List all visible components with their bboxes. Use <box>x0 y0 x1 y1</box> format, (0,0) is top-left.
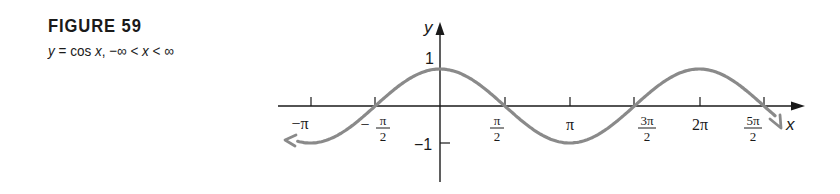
svg-text:2: 2 <box>644 129 651 144</box>
svg-text:5π: 5π <box>746 113 760 128</box>
svg-text:2: 2 <box>494 129 501 144</box>
x-axis-arrow-icon <box>791 102 805 111</box>
y-tick-label-neg-one: −1 <box>414 136 432 153</box>
x-tick-label-five-half-pi: 5π 2 <box>744 113 762 144</box>
curve-left-arrow-icon <box>285 135 296 146</box>
svg-text:2: 2 <box>380 129 387 144</box>
y-axis-arrow-icon <box>436 22 445 35</box>
x-tick-label-three-half-pi: 3π 2 <box>638 113 656 144</box>
svg-text:π: π <box>380 113 387 128</box>
cosine-plot: y x 1 −1 −π − π 2 π 2 π 3π 2 2π 5π 2 <box>0 0 840 194</box>
svg-text:π: π <box>494 113 501 128</box>
x-tick-label-neg-half-pi: − π 2 <box>360 113 390 144</box>
x-axis-label: x <box>785 115 795 134</box>
x-tick-label-neg-pi: −π <box>291 115 308 132</box>
y-axis-label: y <box>423 18 434 37</box>
y-tick-label-one: 1 <box>425 50 434 67</box>
x-tick-label-half-pi: π 2 <box>490 113 504 144</box>
x-tick-label-pi: π <box>566 116 574 133</box>
svg-text:3π: 3π <box>640 113 654 128</box>
svg-text:2: 2 <box>750 129 757 144</box>
svg-text:−: − <box>360 116 369 133</box>
x-tick-label-two-pi: 2π <box>692 116 708 133</box>
